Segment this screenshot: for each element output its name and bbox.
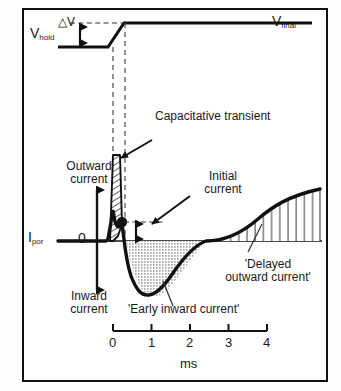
early-inward-current-label: 'Early inward current' [128,303,239,316]
xtick-0: 0 [109,336,116,350]
zero-label: 0 [78,231,86,246]
inward-current-label: Inward current [56,290,122,316]
xtick-2: 2 [186,336,193,350]
v-hold-label: Vhold [30,26,54,43]
xtick-1: 1 [148,336,155,350]
figure-container: Vhold △V Vfinal Capacitative transient O… [0,0,341,391]
delta-v-label: △V [58,16,75,29]
xtick-4: 4 [263,336,270,350]
axis-unit-label: ms [180,357,197,371]
time-axis [113,324,267,331]
xtick-3: 3 [225,336,232,350]
outward-current-label: Outward current [56,160,122,186]
i-por-label: Ipor [28,230,43,247]
capacitative-transient-leader [121,140,152,158]
delayed-outward-current-label: 'Delayed outward current' [214,258,322,284]
figure-plot [0,0,341,391]
initial-current-label: Initial current [192,170,254,196]
v-final-label: Vfinal [272,14,296,31]
initial-current-leader [152,196,190,224]
capacitative-transient-label: Capacitative transient [155,110,270,123]
